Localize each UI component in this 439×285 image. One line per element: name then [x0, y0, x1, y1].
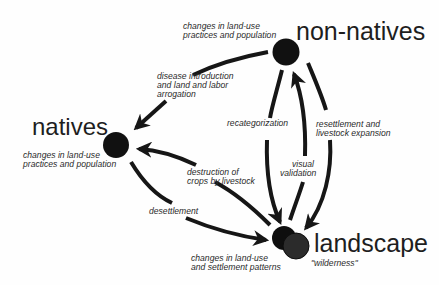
- edge-recategorization: [270, 70, 282, 118]
- desettlement-label: desettlement: [149, 206, 199, 216]
- disease-introduction-label-line3: arrogation: [157, 89, 196, 99]
- natives-annotation-line2: practices and population: [22, 159, 116, 169]
- landscape-annotation-line2: and settlement patterns: [191, 262, 282, 272]
- edge-destruction-of-crops: [215, 182, 270, 225]
- edge-desettlement-arrow: [186, 218, 266, 240]
- node-landscape: [272, 226, 309, 259]
- non-natives-annotation-line2: practices and population: [182, 30, 276, 40]
- natives-label: natives: [32, 113, 108, 140]
- edge-destruction-of-crops-arrow: [139, 149, 196, 165]
- edge-disease-introduction-arrow: [136, 101, 166, 128]
- edge-visual-validation-arrow: [294, 74, 305, 156]
- non-natives-label: non-natives: [296, 17, 425, 45]
- visual-validation-label-line2: validation: [280, 168, 317, 178]
- recategorization-label: recategorization: [227, 118, 288, 128]
- destruction-of-crops-label-line2: crops by livestock: [187, 176, 256, 186]
- resettlement-label-line2: livestock expansion: [316, 128, 391, 138]
- actor-landscape-diagram: non-natives natives landscape "wildernes…: [0, 0, 439, 285]
- edge-resettlement-arrow: [306, 140, 330, 228]
- landscape-label: landscape: [314, 229, 428, 257]
- edge-resettlement: [308, 63, 326, 110]
- edge-recategorization-arrow: [267, 140, 280, 222]
- wilderness-label: "wilderness": [311, 258, 359, 268]
- edge-desettlement: [131, 162, 172, 203]
- edge-visual-validation: [290, 182, 303, 220]
